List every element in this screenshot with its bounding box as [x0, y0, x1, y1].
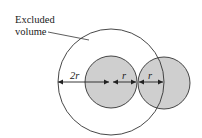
label-leader-line: [48, 32, 89, 40]
excluded-volume-diagram: Excluded volume 2r r r: [0, 0, 202, 138]
label-excluded: Excluded: [15, 14, 55, 25]
dimension-label-2r: 2r: [70, 70, 80, 81]
label-volume: volume: [15, 26, 47, 37]
